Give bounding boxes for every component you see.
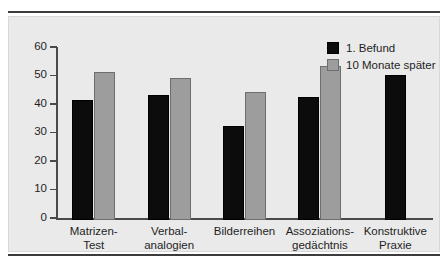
y-tick-label-text: 40 (13, 98, 47, 109)
bar-monate-3 (320, 66, 341, 220)
bar-monate-2 (245, 92, 266, 220)
bar-monate-1 (170, 78, 191, 221)
y-tick-label-text: 30 (13, 126, 47, 137)
y-tick-label-text: 10 (13, 183, 47, 194)
legend-swatch-light (327, 59, 339, 71)
top-divider-rule (8, 11, 440, 13)
y-tick-label-40: 40 (9, 98, 47, 110)
legend-item-1[interactable]: 10 Monate später (327, 56, 436, 73)
chart-panel: 0102030405060 Matrizen-TestVerbal-analog… (8, 16, 440, 252)
bar-monate-0 (94, 72, 115, 220)
y-tick-label-30: 30 (9, 126, 47, 138)
x-category-label-4: KonstruktivePraxie (335, 225, 448, 252)
y-tick-label-50: 50 (9, 69, 47, 81)
bar-befund-0 (72, 100, 93, 220)
y-tick-label-20: 20 (9, 155, 47, 167)
bottom-divider-rule (8, 254, 440, 256)
y-tick-label-text: 20 (13, 155, 47, 166)
bar-befund-1 (148, 95, 169, 220)
legend-label: 10 Monate später (346, 59, 436, 71)
x-category-label-line: Konstruktive (335, 225, 448, 239)
y-tick-label-0: 0 (9, 212, 47, 224)
y-tick-label-60: 60 (9, 41, 47, 53)
x-category-label-line: Praxie (335, 239, 448, 253)
bar-befund-2 (223, 126, 244, 220)
y-tick-label-text: 0 (13, 212, 47, 223)
legend-swatch-dark (327, 42, 339, 54)
y-tick-label-10: 10 (9, 183, 47, 195)
bar-befund-3 (298, 97, 319, 220)
figure-container: 0102030405060 Matrizen-TestVerbal-analog… (0, 0, 448, 268)
chart-legend: 1. Befund10 Monate später (327, 39, 436, 73)
x-category-label-line: analogien (109, 239, 229, 253)
legend-label: 1. Befund (346, 42, 395, 54)
legend-item-0[interactable]: 1. Befund (327, 39, 436, 56)
y-tick-label-text: 50 (13, 69, 47, 80)
bar-befund-4 (385, 75, 406, 220)
y-tick-label-text: 60 (13, 41, 47, 52)
